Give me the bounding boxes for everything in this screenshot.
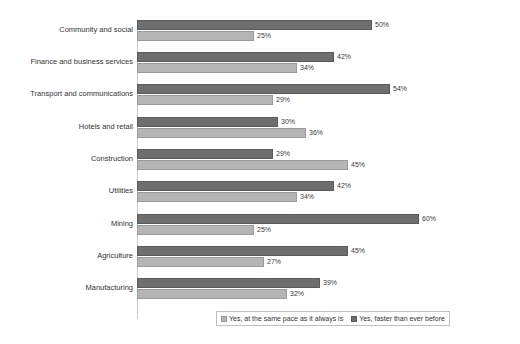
category-label: Community and social: [7, 25, 137, 34]
bar-row: 25%: [137, 31, 513, 41]
bar-value-label: 45%: [348, 161, 365, 169]
bar-value-label: 29%: [273, 96, 290, 104]
bar-value-label: 50%: [372, 21, 389, 29]
bar-group: 30%36%: [137, 117, 513, 139]
bar-value-label: 42%: [334, 182, 351, 190]
bar-chart: Community and socialFinance and business…: [0, 0, 520, 344]
bar-row: 29%: [137, 95, 513, 105]
bar-value-label: 30%: [278, 118, 295, 126]
bar-value-label: 45%: [348, 247, 365, 255]
bar[interactable]: [137, 181, 334, 191]
bar-row: 34%: [137, 63, 513, 73]
bar-row: 42%: [137, 52, 513, 62]
bar[interactable]: [137, 214, 419, 224]
bar[interactable]: [137, 117, 278, 127]
bar[interactable]: [137, 160, 348, 170]
plot-area: 50%25%42%34%54%29%30%36%29%45%42%34%60%2…: [137, 14, 513, 305]
bar-group: 29%45%: [137, 149, 513, 171]
legend-swatch-icon: [351, 316, 357, 322]
bar[interactable]: [137, 31, 254, 41]
bar-group: 45%27%: [137, 246, 513, 268]
bar-value-label: 60%: [419, 215, 436, 223]
legend-item[interactable]: Yes, faster than ever before: [351, 314, 445, 323]
bar[interactable]: [137, 257, 264, 267]
bar-value-label: 36%: [306, 129, 323, 137]
category-axis-labels: Community and socialFinance and business…: [0, 14, 137, 305]
legend-label: Yes, at the same pace as it always is: [229, 314, 343, 323]
bar-row: 32%: [137, 289, 513, 299]
bar-row: 39%: [137, 278, 513, 288]
bar-row: 60%: [137, 214, 513, 224]
category-label: Utilities: [7, 186, 137, 195]
bar-group: 54%29%: [137, 84, 513, 106]
bar-group: 50%25%: [137, 20, 513, 42]
bar[interactable]: [137, 128, 306, 138]
bar-group: 42%34%: [137, 52, 513, 74]
category-label: Mining: [7, 219, 137, 228]
bar-row: 42%: [137, 181, 513, 191]
bar-row: 29%: [137, 149, 513, 159]
category-label: Agriculture: [7, 251, 137, 260]
category-label: Hotels and retail: [7, 122, 137, 131]
bar-value-label: 34%: [297, 64, 314, 72]
legend-label: Yes, faster than ever before: [359, 314, 445, 323]
bar-row: 50%: [137, 20, 513, 30]
bar-row: 54%: [137, 84, 513, 94]
bar-value-label: 42%: [334, 53, 351, 61]
bar-value-label: 29%: [273, 150, 290, 158]
bar[interactable]: [137, 192, 297, 202]
bar-value-label: 32%: [287, 290, 304, 298]
bar-value-label: 25%: [254, 226, 271, 234]
bar[interactable]: [137, 289, 287, 299]
bar-row: 30%: [137, 117, 513, 127]
bar-row: 36%: [137, 128, 513, 138]
bar-row: 45%: [137, 160, 513, 170]
bar-row: 45%: [137, 246, 513, 256]
bar[interactable]: [137, 63, 297, 73]
bar-group: 60%25%: [137, 214, 513, 236]
bar-row: 25%: [137, 225, 513, 235]
bar-group: 39%32%: [137, 278, 513, 300]
bar[interactable]: [137, 52, 334, 62]
bar-row: 34%: [137, 192, 513, 202]
bar[interactable]: [137, 246, 348, 256]
chart-legend: Yes, at the same pace as it always isYes…: [216, 311, 450, 326]
legend-item[interactable]: Yes, at the same pace as it always is: [221, 314, 343, 323]
bar-value-label: 54%: [390, 85, 407, 93]
bar[interactable]: [137, 278, 320, 288]
bar-value-label: 27%: [264, 258, 281, 266]
category-label: Manufacturing: [7, 283, 137, 292]
bar[interactable]: [137, 149, 273, 159]
bar-group: 42%34%: [137, 181, 513, 203]
category-label: Transport and communications: [7, 89, 137, 98]
bar-value-label: 39%: [320, 279, 337, 287]
bar-value-label: 34%: [297, 193, 314, 201]
bar[interactable]: [137, 20, 372, 30]
legend-swatch-icon: [221, 316, 227, 322]
bar[interactable]: [137, 95, 273, 105]
bar-value-label: 25%: [254, 32, 271, 40]
category-label: Finance and business services: [7, 57, 137, 66]
bar[interactable]: [137, 84, 390, 94]
bar[interactable]: [137, 225, 254, 235]
bar-row: 27%: [137, 257, 513, 267]
category-label: Construction: [7, 154, 137, 163]
